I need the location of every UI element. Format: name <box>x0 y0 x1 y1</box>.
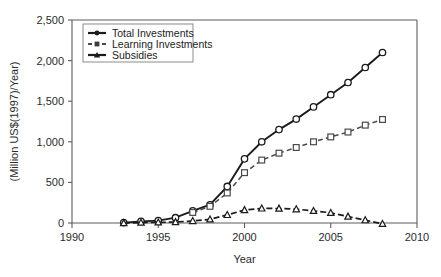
data-point-circle <box>328 92 334 98</box>
axis-titles-group: Year(Million US$(1997)/Year) <box>8 61 256 265</box>
legend-marker-square <box>95 42 100 47</box>
data-point-circle <box>310 104 316 110</box>
legend-marker-circle <box>95 31 100 36</box>
x-axis-title: Year <box>233 253 256 265</box>
x-tick-label: 1995 <box>146 231 170 243</box>
data-point-triangle <box>190 218 196 224</box>
chart-figure: 05001,0001,5002,0002,5001990199520002005… <box>0 0 441 277</box>
data-point-square <box>207 203 213 209</box>
data-point-circle <box>293 116 299 122</box>
data-point-square <box>345 129 351 135</box>
x-tick-label: 2005 <box>319 231 343 243</box>
data-point-circle <box>276 126 282 132</box>
data-point-triangle <box>276 205 282 211</box>
data-point-circle <box>241 156 247 162</box>
data-point-square <box>311 139 317 145</box>
data-point-circle <box>379 49 385 55</box>
x-tick-label: 2000 <box>232 231 256 243</box>
data-point-circle <box>362 64 368 70</box>
data-point-square <box>259 157 265 163</box>
series-total-investments <box>121 49 386 226</box>
y-tick-label: 0 <box>58 217 64 229</box>
series-line <box>124 208 383 223</box>
data-point-triangle <box>241 207 247 213</box>
y-tick-label: 2,500 <box>36 14 64 26</box>
data-point-square <box>362 122 368 128</box>
data-point-square <box>276 150 282 156</box>
y-tick-label: 500 <box>46 176 64 188</box>
series-line <box>193 120 383 213</box>
series-line <box>124 53 383 223</box>
data-point-triangle <box>259 205 265 211</box>
y-tick-label: 1,500 <box>36 95 64 107</box>
series-learning-investments <box>190 117 386 216</box>
data-point-square <box>293 145 299 151</box>
data-point-triangle <box>310 207 316 213</box>
data-point-square <box>328 134 334 140</box>
x-tick-label: 2010 <box>405 231 429 243</box>
data-point-circle <box>259 139 265 145</box>
y-tick-label: 2,000 <box>36 55 64 67</box>
data-point-circle <box>224 183 230 189</box>
data-point-triangle <box>379 220 385 226</box>
data-point-triangle <box>345 213 351 219</box>
chart-legend[interactable]: Total InvestmentsLearning InvestmentsSub… <box>83 24 212 62</box>
data-point-triangle <box>362 217 368 223</box>
data-point-triangle <box>224 211 230 217</box>
x-tick-label: 1990 <box>60 231 84 243</box>
data-point-triangle <box>207 216 213 222</box>
data-point-circle <box>345 79 351 85</box>
series-group <box>121 49 386 226</box>
data-point-square <box>242 170 248 176</box>
data-point-triangle <box>293 206 299 212</box>
data-point-square <box>380 117 386 123</box>
data-point-square <box>224 190 230 196</box>
legend-label: Subsidies <box>112 49 158 61</box>
line-chart-canvas: 05001,0001,5002,0002,5001990199520002005… <box>0 0 441 277</box>
data-point-triangle <box>328 209 334 215</box>
y-tick-label: 1,000 <box>36 136 64 148</box>
data-point-square <box>190 210 196 216</box>
y-axis-title: (Million US$(1997)/Year) <box>8 61 20 181</box>
